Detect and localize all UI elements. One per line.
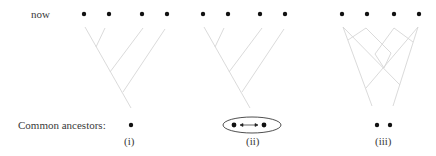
ancestor-dot-iii-a [375,123,379,127]
tree-i [85,27,165,108]
ancestor-dot-ii-b [262,123,267,128]
tree-iii [343,27,418,106]
leaf-dots-i [82,12,169,16]
ancestor-dot-i [129,123,133,127]
double-arrow-icon [240,124,258,127]
ancestry-diagram [0,0,436,156]
ancestor-dot-ii-a [232,123,237,128]
leaf-dots-ii [201,12,287,16]
ancestor-dot-iii-b [388,123,392,127]
tree-ii [204,27,284,108]
leaf-dots-iii [340,12,421,16]
